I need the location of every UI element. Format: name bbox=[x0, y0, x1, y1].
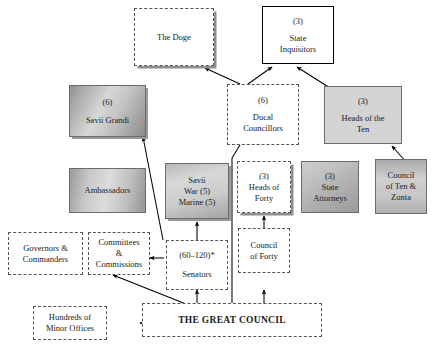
node-savii-grandi[interactable]: (6) Savii Grandi bbox=[69, 85, 146, 137]
edge-spine-riser bbox=[232, 145, 240, 158]
node-heads-of-forty-line-0: (3) bbox=[259, 171, 269, 182]
node-state-inquisitors[interactable]: (3) State Inquisitors bbox=[262, 6, 334, 64]
node-ducal-councillors[interactable]: (6) Ducal Councillors bbox=[227, 84, 299, 145]
node-savii-war-marine-line-2: Marine (5) bbox=[179, 197, 216, 208]
node-council-of-ten-and-zonta-line-2: Zonta bbox=[391, 192, 411, 203]
node-the-great-council[interactable]: THE GREAT COUNCIL bbox=[142, 303, 322, 337]
node-heads-of-the-ten[interactable]: (3) Heads of the Ten bbox=[324, 86, 402, 144]
node-savii-grandi-line-0: (6) bbox=[103, 97, 113, 108]
node-savii-grandi-line-1: Savii Grandi bbox=[86, 115, 129, 126]
node-the-great-council-label: THE GREAT COUNCIL bbox=[178, 315, 286, 326]
node-senators-line-1: Senators bbox=[182, 269, 211, 280]
node-senators-line-0: (60–120)* bbox=[179, 250, 214, 261]
node-heads-of-the-ten-line-1: Heads of the bbox=[342, 113, 385, 124]
node-heads-of-forty-line-2: Forty bbox=[255, 193, 273, 204]
node-council-of-ten-and-zonta-line-0: Council bbox=[388, 170, 415, 181]
node-ambassadors[interactable]: Ambassadors bbox=[69, 168, 146, 213]
node-ducal-councillors-line-2: Councillors bbox=[243, 123, 283, 134]
node-council-of-forty-line-0: Council bbox=[251, 240, 278, 251]
node-heads-of-forty-line-1: Heads of bbox=[249, 182, 279, 193]
node-committees-and-commissions-line-0: Committees bbox=[98, 237, 139, 248]
node-council-of-forty[interactable]: Council of Forty bbox=[238, 228, 290, 273]
node-council-of-ten-and-zonta[interactable]: Council of Ten & Zonta bbox=[375, 159, 427, 214]
node-the-doge-line-0: The Doge bbox=[157, 32, 191, 43]
node-committees-and-commissions[interactable]: Committees & Commissions bbox=[88, 232, 150, 275]
node-governors-and-commanders-line-1: Commanders bbox=[23, 254, 68, 265]
node-council-of-ten-and-zonta-line-1: of Ten & bbox=[386, 181, 416, 192]
node-council-of-forty-line-1: of Forty bbox=[250, 251, 278, 262]
node-state-attorneys[interactable]: (3) State Attorneys bbox=[301, 161, 359, 213]
node-committees-and-commissions-line-2: Commissions bbox=[96, 259, 142, 270]
node-ducal-councillors-line-1: Ducal bbox=[253, 112, 273, 123]
edge-headsten-to-inquisitors bbox=[297, 67, 330, 88]
node-governors-and-commanders[interactable]: Governors & Commanders bbox=[8, 232, 83, 275]
node-governors-and-commanders-line-0: Governors & bbox=[23, 243, 68, 254]
node-savii-war-marine[interactable]: Savii War (5) Marine (5) bbox=[165, 163, 229, 219]
diagram-canvas: The Doge (3) State Inquisitors (6) Savii… bbox=[0, 0, 438, 346]
node-hundreds-of-minor-offices[interactable]: Hundreds of Minor Offices bbox=[33, 306, 107, 340]
node-savii-war-marine-line-0: Savii bbox=[188, 175, 205, 186]
node-heads-of-the-ten-line-0: (3) bbox=[358, 96, 368, 107]
node-ducal-councillors-line-0: (6) bbox=[258, 95, 268, 106]
node-state-inquisitors-line-0: (3) bbox=[293, 16, 303, 27]
node-ambassadors-line-0: Ambassadors bbox=[85, 185, 131, 196]
edge-ducal-to-inquisitors bbox=[248, 67, 272, 84]
node-state-inquisitors-line-1: State bbox=[290, 33, 307, 44]
node-the-doge[interactable]: The Doge bbox=[134, 8, 214, 66]
node-heads-of-the-ten-line-2: Ten bbox=[357, 124, 370, 135]
node-savii-war-marine-line-1: War (5) bbox=[184, 186, 210, 197]
node-hundreds-of-minor-offices-line-0: Hundreds of bbox=[49, 312, 91, 323]
edge-ducal-to-doge bbox=[205, 68, 240, 84]
node-state-attorneys-line-1: State bbox=[322, 182, 339, 193]
edge-senators-to-saviigrandi bbox=[143, 137, 163, 240]
node-hundreds-of-minor-offices-line-1: Minor Offices bbox=[46, 323, 94, 334]
node-state-attorneys-line-2: Attorneys bbox=[313, 193, 347, 204]
node-senators[interactable]: (60–120)* Senators bbox=[166, 240, 228, 290]
node-state-inquisitors-line-2: Inquisitors bbox=[280, 44, 316, 55]
node-state-attorneys-line-0: (3) bbox=[325, 171, 335, 182]
node-committees-and-commissions-line-1: & bbox=[116, 248, 123, 259]
node-heads-of-forty[interactable]: (3) Heads of Forty bbox=[237, 161, 291, 213]
